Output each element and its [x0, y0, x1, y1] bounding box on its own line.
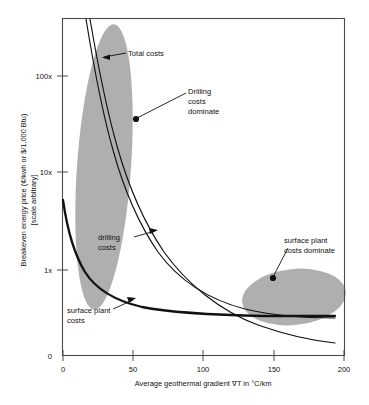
- annotation-drilling-costs-line1: drilling: [98, 233, 120, 242]
- x-tick-label-100: 100: [197, 365, 210, 374]
- surface-plant-costs-dominate-region: [239, 264, 348, 331]
- annotation-total-costs-label: Total costs: [128, 49, 164, 58]
- y-origin-label-0: 0: [48, 352, 52, 361]
- chart-regions: [67, 22, 349, 330]
- annotation-drilling-dominate-line1: Drilling: [188, 87, 211, 96]
- geothermal-breakeven-price-chart: 100x 10x 1x 0 0 50 100 150 200 Average g…: [0, 0, 369, 405]
- annotation-surface-dominate-line1: surface plant: [284, 236, 328, 245]
- drilling-dominate-anchor-dot: [133, 116, 139, 122]
- annotation-drilling-dominate-line2: costs: [188, 97, 206, 106]
- x-tick-label-150: 150: [268, 365, 281, 374]
- x-tick-label-50: 50: [129, 365, 137, 374]
- annotation-surface-plant-costs-line1: surface plant: [67, 306, 111, 315]
- y-tick-label-10x: 10x: [40, 168, 52, 177]
- x-tick-label-0: 0: [61, 365, 65, 374]
- annotation-drilling-costs-dominate: Drilling costs dominate: [133, 87, 219, 122]
- x-axis-title: Average geothermal gradient ∇T in °C/km: [135, 379, 272, 388]
- x-tick-label-200: 200: [338, 365, 351, 374]
- drilling-costs-dominate-region: [67, 22, 141, 311]
- annotation-drilling-costs-line2: costs: [98, 243, 116, 252]
- y-axis-title-line2: [scale arbitrary]: [29, 175, 38, 226]
- annotation-surface-dominate-line2: costs dominate: [284, 246, 335, 255]
- y-axis-title-line1: Breakeven energy price (¢/kwh or $/1,000…: [19, 114, 28, 267]
- y-tick-label-100x: 100x: [36, 72, 53, 81]
- chart-figure: 100x 10x 1x 0 0 50 100 150 200 Average g…: [0, 0, 369, 405]
- annotation-drilling-dominate-line3: dominate: [188, 107, 219, 116]
- y-tick-label-1x: 1x: [44, 266, 52, 275]
- annotation-surface-plant-costs-line2: costs: [67, 316, 85, 325]
- surface-dominate-anchor-dot: [270, 275, 276, 281]
